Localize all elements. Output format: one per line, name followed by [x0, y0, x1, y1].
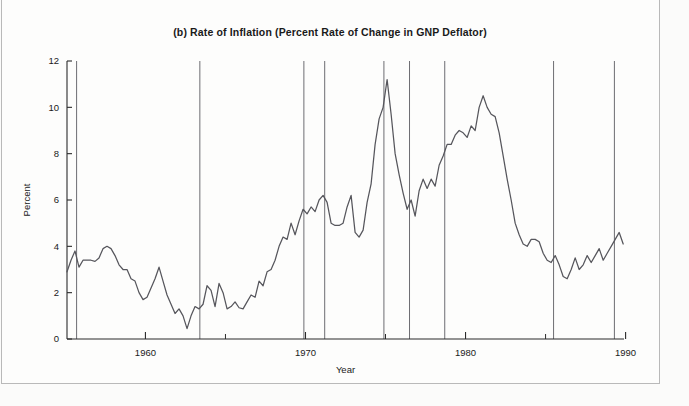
- y-tick-label: 2: [54, 287, 59, 298]
- y-tick-label: 12: [48, 55, 59, 66]
- series-line-0: [67, 80, 623, 329]
- x-tick-label: 1990: [615, 347, 636, 358]
- inflation-chart-figure: (b) Rate of Inflation (Percent Rate of C…: [0, 0, 689, 406]
- y-tick-label: 0: [54, 333, 59, 344]
- x-axis-title: Year: [336, 364, 355, 375]
- y-tick-label: 10: [48, 102, 59, 113]
- chart-ticks: [67, 61, 626, 339]
- x-tick-label: 1960: [135, 347, 156, 358]
- chart-plot-area: 0246810121960197019801990YearPercent: [0, 0, 689, 406]
- y-tick-label: 4: [54, 241, 59, 252]
- x-tick-label: 1970: [295, 347, 316, 358]
- recession-marker-lines: [77, 61, 615, 339]
- chart-axes: [67, 61, 624, 339]
- y-tick-label: 6: [54, 194, 59, 205]
- y-axis-title: Percent: [21, 183, 32, 216]
- inflation-series-line: [67, 80, 623, 329]
- chart-tick-labels: 0246810121960197019801990YearPercent: [21, 55, 636, 375]
- x-tick-label: 1980: [455, 347, 476, 358]
- y-tick-label: 8: [54, 148, 59, 159]
